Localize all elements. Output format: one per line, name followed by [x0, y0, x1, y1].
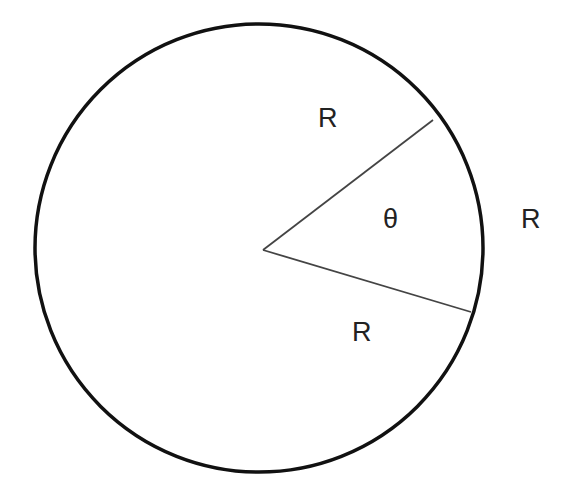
label-radius-lower: R	[352, 317, 372, 348]
radius-line-lower	[263, 250, 471, 312]
label-arc-length: R	[521, 204, 541, 235]
radius-line-upper	[263, 120, 433, 250]
circle-outline	[35, 24, 483, 472]
label-angle-theta: θ	[383, 204, 398, 235]
circle-sector-diagram	[0, 0, 572, 485]
label-radius-upper: R	[318, 103, 338, 134]
